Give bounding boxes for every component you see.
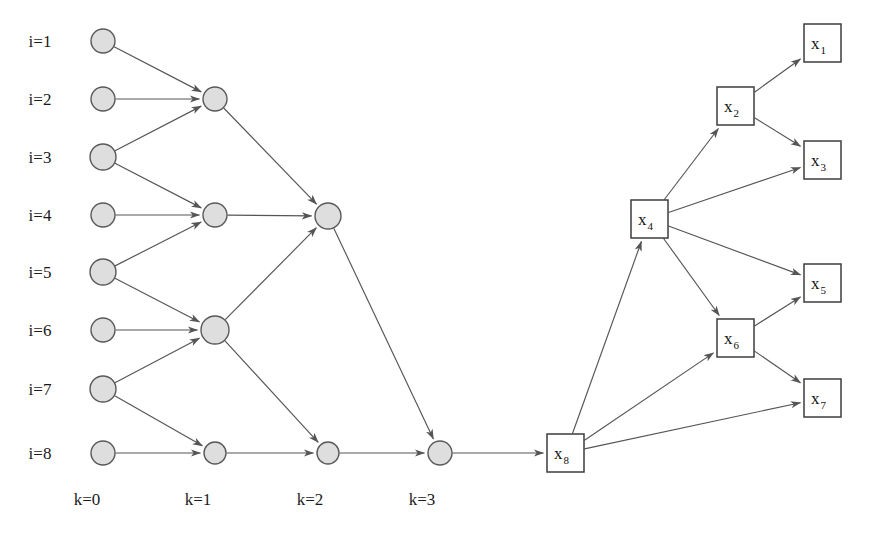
box-sub-x7: 7 bbox=[821, 399, 827, 411]
edge-n-k0-1-to-n-k1-1 bbox=[114, 47, 201, 92]
edge-x2-to-x3 bbox=[755, 118, 801, 147]
row-label-i7: i=7 bbox=[29, 380, 52, 399]
box-outline-x1 bbox=[804, 24, 841, 62]
box-node-x4[interactable]: x4 bbox=[631, 200, 668, 238]
node-k3-1[interactable] bbox=[428, 441, 452, 465]
box-outline-x6 bbox=[717, 319, 754, 357]
box-outline-x8 bbox=[547, 434, 584, 472]
node-k0-2[interactable] bbox=[91, 87, 115, 111]
row-label-i5: i=5 bbox=[29, 263, 52, 282]
row-label-i3: i=3 bbox=[29, 148, 52, 167]
box-sub-x5: 5 bbox=[821, 284, 827, 296]
box-sub-x2: 2 bbox=[734, 107, 740, 119]
edge-x2-to-x1 bbox=[755, 59, 801, 92]
node-k0-8[interactable] bbox=[91, 441, 115, 465]
row-label-i1: i=1 bbox=[29, 32, 52, 51]
graph-svg: x1x2x3x4x5x6x7x8 i=1i=2i=3i=4i=5i=6i=7i=… bbox=[0, 0, 880, 540]
node-k2-1[interactable] bbox=[315, 203, 341, 229]
box-sub-x6: 6 bbox=[734, 339, 740, 351]
column-label-k2: k=2 bbox=[297, 490, 324, 509]
box-outline-x2 bbox=[717, 87, 754, 125]
edge-n-k1-3-to-n-k2-2 bbox=[225, 341, 318, 443]
node-layer bbox=[90, 29, 452, 465]
edge-n-k1-2-to-n-k2-1 bbox=[228, 215, 312, 216]
box-node-x3[interactable]: x3 bbox=[804, 141, 841, 179]
edge-x4-to-x2 bbox=[664, 129, 718, 200]
edge-n-k0-7-to-n-k1-4 bbox=[115, 396, 203, 446]
edge-n-k0-3-to-n-k1-2 bbox=[115, 163, 201, 208]
edge-x4-to-x5 bbox=[669, 226, 801, 275]
node-k0-7[interactable] bbox=[90, 376, 116, 402]
node-k0-3[interactable] bbox=[90, 144, 116, 170]
column-label-k0: k=0 bbox=[74, 490, 101, 509]
edge-x8-to-x7 bbox=[585, 403, 801, 449]
column-label-k1: k=1 bbox=[185, 490, 212, 509]
box-sub-x4: 4 bbox=[648, 220, 654, 232]
edge-x4-to-x3 bbox=[669, 168, 801, 213]
box-outline-x4 bbox=[631, 200, 668, 238]
edge-x4-to-x6 bbox=[664, 239, 720, 316]
box-layer: x1x2x3x4x5x6x7x8 bbox=[547, 24, 841, 472]
node-k1-2[interactable] bbox=[203, 203, 227, 227]
box-node-x1[interactable]: x1 bbox=[804, 24, 841, 62]
edge-x8-to-x6 bbox=[585, 353, 714, 440]
node-k1-1[interactable] bbox=[203, 87, 227, 111]
diagram-canvas: x1x2x3x4x5x6x7x8 i=1i=2i=3i=4i=5i=6i=7i=… bbox=[0, 0, 880, 540]
edge-n-k0-3-to-n-k1-1 bbox=[115, 106, 201, 151]
node-k1-4[interactable] bbox=[204, 442, 226, 464]
row-label-i2: i=2 bbox=[29, 90, 52, 109]
row-label-i4: i=4 bbox=[29, 206, 52, 225]
box-outline-x3 bbox=[804, 141, 841, 179]
row-label-i6: i=6 bbox=[29, 321, 52, 340]
node-k1-3[interactable] bbox=[201, 316, 229, 344]
box-outline-x5 bbox=[804, 264, 841, 302]
box-sub-x8: 8 bbox=[564, 454, 570, 466]
edge-n-k0-5-to-n-k1-2 bbox=[115, 222, 201, 266]
box-node-x7[interactable]: x7 bbox=[804, 379, 841, 417]
edge-n-k2-1-to-n-k3-1 bbox=[334, 228, 434, 439]
box-sub-x3: 3 bbox=[821, 161, 827, 173]
node-k0-1[interactable] bbox=[91, 29, 115, 53]
edge-n-k0-7-to-n-k1-3 bbox=[115, 338, 200, 383]
column-label-k3: k=3 bbox=[409, 490, 436, 509]
node-k0-4[interactable] bbox=[91, 203, 115, 227]
box-outline-x7 bbox=[804, 379, 841, 417]
edge-x6-to-x7 bbox=[755, 351, 801, 383]
edge-x8-to-x4 bbox=[573, 242, 642, 434]
node-k2-2[interactable] bbox=[317, 442, 339, 464]
edge-n-k0-5-to-n-k1-3 bbox=[115, 278, 199, 322]
node-k0-6[interactable] bbox=[91, 318, 115, 342]
edge-n-k1-1-to-n-k2-1 bbox=[224, 108, 317, 204]
node-k0-5[interactable] bbox=[90, 259, 116, 285]
box-node-x6[interactable]: x6 bbox=[717, 319, 754, 357]
box-node-x2[interactable]: x2 bbox=[717, 87, 754, 125]
edge-n-k1-3-to-n-k2-1 bbox=[225, 228, 316, 320]
box-node-x8[interactable]: x8 bbox=[547, 434, 584, 472]
box-sub-x1: 1 bbox=[821, 44, 827, 56]
box-node-x5[interactable]: x5 bbox=[804, 264, 841, 302]
row-label-i8: i=8 bbox=[29, 444, 52, 463]
edge-x6-to-x5 bbox=[755, 297, 801, 326]
